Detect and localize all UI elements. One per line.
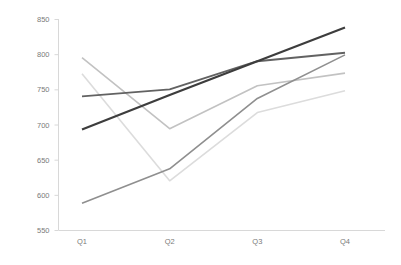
y-tick-label: 750 — [37, 85, 50, 94]
x-axis: Q1Q2Q3Q4 — [59, 231, 386, 247]
y-tick-label: 600 — [37, 191, 50, 200]
x-tick-label: Q1 — [77, 237, 87, 246]
x-tick-label: Q2 — [165, 237, 175, 246]
y-tick-group: 550600650700750800850 — [37, 15, 59, 235]
y-tick-label: 550 — [37, 226, 50, 235]
x-tick-label: Q3 — [252, 237, 262, 246]
y-tick-label: 650 — [37, 156, 50, 165]
y-axis: 550600650700750800850 — [37, 15, 59, 235]
y-tick-label: 800 — [37, 50, 50, 59]
y-tick-label: 850 — [37, 15, 50, 24]
series-group — [82, 27, 345, 203]
line-chart: 550600650700750800850 Q1Q2Q3Q4 — [0, 0, 401, 265]
x-tick-group: Q1Q2Q3Q4 — [77, 237, 350, 246]
chart-canvas: 550600650700750800850 Q1Q2Q3Q4 — [0, 0, 401, 265]
x-tick-label: Q4 — [340, 237, 350, 246]
y-tick-label: 700 — [37, 121, 50, 130]
